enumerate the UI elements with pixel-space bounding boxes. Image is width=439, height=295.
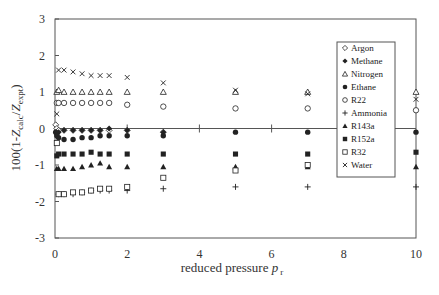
- x-tick-label: 2: [124, 247, 130, 261]
- legend-label: Ethane: [351, 82, 376, 92]
- circle-filled-marker: [70, 137, 75, 142]
- square-open-marker: [125, 184, 130, 189]
- circle-filled-marker: [343, 85, 348, 90]
- legend-label: R22: [351, 95, 366, 105]
- triangle-open-marker: [79, 89, 85, 94]
- triangle-open-marker: [88, 89, 94, 94]
- triangle-open-marker: [97, 89, 103, 94]
- triangle-open-marker: [70, 89, 76, 94]
- circle-open-marker: [79, 100, 84, 105]
- square-open-marker: [89, 188, 94, 193]
- legend-label: Argon: [351, 43, 374, 53]
- x-marker: [107, 73, 112, 78]
- circle-open-marker: [61, 100, 66, 105]
- legend-label: R152a: [351, 134, 375, 144]
- square-open-marker: [98, 186, 103, 191]
- x-axis: 0246810: [52, 247, 422, 261]
- square-filled-marker: [61, 152, 66, 157]
- square-open-marker: [305, 162, 310, 167]
- triangle-filled-marker: [61, 166, 67, 171]
- triangle-filled-marker: [88, 162, 94, 167]
- square-open-marker: [107, 186, 112, 191]
- circle-filled-marker: [79, 135, 84, 140]
- x-marker: [56, 68, 61, 73]
- circle-open-marker: [343, 98, 348, 103]
- x-tick-label: 10: [410, 247, 422, 261]
- triangle-filled-marker: [79, 164, 85, 169]
- square-open-marker: [80, 190, 85, 195]
- y-axis-title: 100(1-Zcalc/Zexpt): [8, 84, 25, 171]
- legend-label: Ammonia: [351, 108, 387, 118]
- circle-open-marker: [413, 108, 418, 113]
- circle-filled-marker: [413, 129, 418, 134]
- x-marker: [80, 71, 85, 76]
- circle-filled-marker: [125, 133, 130, 138]
- x-marker: [161, 80, 166, 85]
- x-axis-title: reduced pressure pr: [181, 260, 283, 277]
- circle-filled-marker: [61, 137, 66, 142]
- square-filled-marker: [305, 152, 310, 157]
- square-filled-marker: [98, 152, 103, 157]
- square-filled-marker: [343, 137, 347, 141]
- square-open-marker: [233, 168, 238, 173]
- plus-marker: [413, 184, 419, 190]
- y-tick-label: -2: [35, 195, 45, 209]
- triangle-filled-marker: [160, 164, 166, 169]
- square-filled-marker: [107, 152, 112, 157]
- square-open-marker: [71, 190, 76, 195]
- scatter-chart: -3-2-10123 0246810 ArgonMethaneNitrogenE…: [0, 0, 439, 295]
- x-marker: [125, 75, 130, 80]
- square-filled-marker: [89, 150, 94, 155]
- x-tick-label: 4: [196, 247, 202, 261]
- square-filled-marker: [233, 152, 238, 157]
- circle-open-marker: [56, 100, 61, 105]
- y-tick-label: 1: [39, 85, 45, 99]
- square-open-marker: [54, 141, 59, 146]
- x-tick-label: 0: [52, 247, 58, 261]
- triangle-filled-marker: [413, 164, 419, 169]
- series-r32: [54, 141, 310, 197]
- triangle-open-marker: [413, 89, 419, 94]
- circle-open-marker: [161, 104, 166, 109]
- square-open-marker: [56, 192, 61, 197]
- x-marker: [62, 68, 67, 73]
- square-filled-marker: [80, 152, 85, 157]
- circle-filled-marker: [88, 135, 93, 140]
- circle-open-marker: [106, 100, 111, 105]
- y-tick-label: 2: [39, 49, 45, 63]
- legend-label: R32: [351, 147, 366, 157]
- circle-open-marker: [125, 102, 130, 107]
- triangle-open-marker: [106, 89, 112, 94]
- square-open-marker: [161, 175, 166, 180]
- x-marker: [71, 70, 76, 75]
- triangle-filled-marker: [97, 160, 103, 165]
- x-marker: [98, 73, 103, 78]
- triangle-open-marker: [160, 89, 166, 94]
- circle-filled-marker: [106, 133, 111, 138]
- circle-open-marker: [233, 106, 238, 111]
- y-tick-label: 3: [39, 12, 45, 26]
- y-tick-label: -1: [35, 158, 45, 172]
- x-marker: [89, 73, 94, 78]
- circle-filled-marker: [233, 129, 238, 134]
- x-tick-label: 8: [341, 247, 347, 261]
- square-open-marker: [61, 192, 66, 197]
- square-open-marker: [343, 150, 347, 154]
- square-filled-marker: [161, 152, 166, 157]
- circle-open-marker: [70, 100, 75, 105]
- y-tick-label: 0: [39, 122, 45, 136]
- circle-filled-marker: [97, 133, 102, 138]
- circle-open-marker: [97, 100, 102, 105]
- legend-label: Methane: [351, 56, 383, 66]
- square-filled-marker: [71, 152, 76, 157]
- square-filled-marker: [125, 152, 130, 157]
- legend: ArgonMethaneNitrogenEthaneR22AmmoniaR143…: [337, 42, 395, 177]
- plus-marker: [233, 184, 239, 190]
- circle-filled-marker: [161, 133, 166, 138]
- circle-open-marker: [88, 100, 93, 105]
- plus-marker: [305, 184, 311, 190]
- x-tick-label: 6: [269, 247, 275, 261]
- circle-open-marker: [305, 106, 310, 111]
- plus-marker: [160, 186, 166, 192]
- triangle-filled-marker: [124, 164, 130, 169]
